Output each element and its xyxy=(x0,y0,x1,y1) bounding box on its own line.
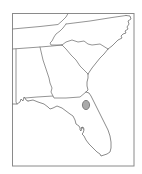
southeast-us-map xyxy=(0,0,142,174)
location-marker[interactable] xyxy=(82,100,89,109)
map-container: Southeastern United States xyxy=(0,0,142,174)
map-frame xyxy=(13,14,135,167)
